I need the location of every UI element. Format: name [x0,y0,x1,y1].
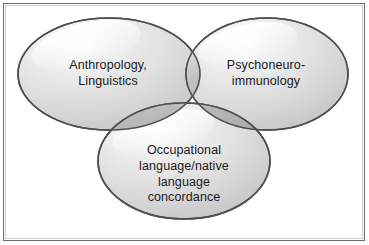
venn-diagram-figure: Anthropology, Linguistics Psychoneuro- i… [0,0,369,245]
venn-artwork [0,0,369,245]
